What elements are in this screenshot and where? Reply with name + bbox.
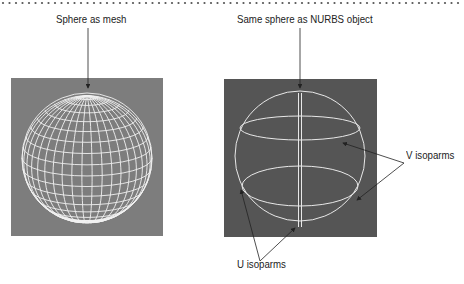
diagram-canvas (0, 0, 464, 284)
mesh-sphere-viewport (11, 78, 163, 236)
